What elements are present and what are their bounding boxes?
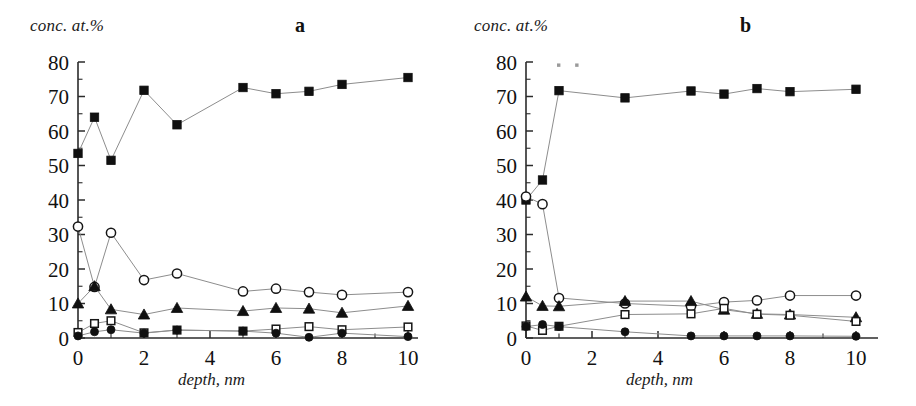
marker-open-square [852, 318, 860, 326]
marker-filled-circle [239, 327, 247, 335]
y-tick-label: 10 [496, 292, 517, 316]
y-tick-label: 20 [496, 258, 517, 282]
marker-open-square [786, 311, 794, 319]
marker-filled-circle [404, 333, 412, 341]
panel-a: conc. at.% a 010203040506070800246810 de… [0, 0, 458, 406]
marker-filled-square [753, 84, 761, 92]
marker-open-square [720, 305, 728, 313]
axes-group [78, 62, 418, 338]
y-tick-label: 70 [48, 85, 69, 109]
marker-filled-square [338, 80, 346, 88]
marker-filled-circle [539, 321, 547, 329]
marker-filled-square [173, 121, 181, 129]
marker-open-circle [403, 288, 412, 297]
y-tick-label: 50 [496, 154, 517, 178]
series-line-filled-square [526, 89, 856, 200]
x-tick-label: 8 [785, 346, 796, 370]
marker-filled-square [305, 87, 313, 95]
axes-group [526, 62, 878, 338]
marker-open-circle [271, 284, 280, 293]
figure-root: conc. at.% a 010203040506070800246810 de… [0, 0, 916, 406]
marker-filled-square [786, 87, 794, 95]
artifact-speck [557, 63, 560, 66]
marker-filled-square [404, 73, 412, 81]
markers-filled-square [74, 73, 412, 164]
marker-filled-triangle [537, 300, 548, 310]
y-tick-label: 50 [48, 154, 69, 178]
series-filled-square [526, 89, 856, 200]
markers-open-circle [521, 192, 860, 311]
marker-open-square [621, 311, 629, 319]
marker-open-circle [304, 288, 313, 297]
panel-a-plot: 010203040506070800246810 [0, 0, 458, 406]
marker-open-circle [337, 290, 346, 299]
marker-filled-circle [305, 333, 313, 341]
x-tick-label: 10 [846, 346, 867, 370]
marker-filled-circle [687, 332, 695, 340]
artifact-group [557, 63, 579, 66]
marker-filled-square [107, 156, 115, 164]
marker-filled-triangle [171, 302, 182, 312]
marker-open-square [305, 323, 313, 331]
marker-open-square [753, 310, 761, 318]
series-open-circle [78, 227, 408, 295]
y-tick-label: 80 [496, 51, 517, 75]
marker-filled-square [74, 149, 82, 157]
marker-open-circle [106, 228, 115, 237]
markers-filled-circle [74, 326, 412, 342]
y-tick-label: 20 [48, 258, 69, 282]
y-tick-label: 40 [496, 189, 517, 213]
marker-filled-circle [74, 332, 82, 340]
y-tick-label: 80 [48, 51, 69, 75]
x-tick-label: 4 [653, 346, 664, 370]
marker-filled-square [852, 85, 860, 93]
marker-open-square [107, 317, 115, 325]
x-tick-label: 10 [398, 346, 419, 370]
panel-b-plot: 010203040506070800246810 [458, 0, 916, 406]
marker-filled-square [538, 176, 546, 184]
y-tick-label: 60 [48, 120, 69, 144]
marker-filled-circle [91, 328, 99, 336]
marker-filled-square [90, 113, 98, 121]
x-ticks-group: 0246810 [73, 331, 419, 370]
marker-filled-square [272, 90, 280, 98]
marker-filled-triangle [520, 291, 531, 301]
marker-filled-square [140, 86, 148, 94]
marker-filled-square [720, 90, 728, 98]
y-tick-label: 60 [496, 120, 517, 144]
y-tick-label: 70 [496, 85, 517, 109]
y-tick-label: 30 [496, 223, 517, 247]
marker-open-circle [73, 222, 82, 231]
x-tick-label: 4 [205, 346, 216, 370]
marker-open-square [91, 320, 99, 328]
marker-filled-circle [621, 328, 629, 336]
y-tick-label: 30 [48, 223, 69, 247]
y-tick-label: 10 [48, 292, 69, 316]
x-tick-label: 0 [521, 346, 532, 370]
marker-open-square [404, 323, 412, 331]
y-tick-label: 0 [507, 327, 518, 351]
marker-filled-square [555, 86, 563, 94]
panel-b: conc. at.% b 010203040506070800246810 de… [458, 0, 916, 406]
x-tick-label: 6 [719, 346, 730, 370]
x-tick-label: 0 [73, 346, 84, 370]
x-tick-label: 6 [271, 346, 282, 370]
marker-filled-square [687, 87, 695, 95]
series-line-open-circle [526, 197, 856, 307]
marker-open-circle [752, 296, 761, 305]
x-tick-label: 2 [139, 346, 150, 370]
markers-filled-square [522, 84, 860, 204]
marker-open-circle [785, 291, 794, 300]
marker-filled-circle [173, 326, 181, 334]
marker-open-circle [521, 192, 530, 201]
panel-b-xlabel: depth, nm [626, 370, 693, 390]
marker-filled-circle [753, 332, 761, 340]
marker-filled-square [239, 83, 247, 91]
marker-filled-triangle [270, 302, 281, 312]
marker-filled-circle [555, 323, 563, 331]
marker-filled-circle [720, 332, 728, 340]
marker-filled-square [621, 94, 629, 102]
marker-open-circle [238, 287, 247, 296]
marker-filled-triangle [402, 300, 413, 310]
marker-filled-circle [272, 329, 280, 337]
